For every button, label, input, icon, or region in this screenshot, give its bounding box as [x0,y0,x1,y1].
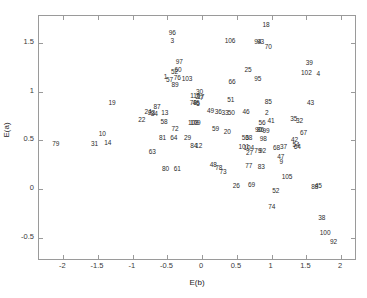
data-point-label: 89 [172,82,179,89]
x-axis-label: E(b) [38,279,356,287]
x-tick-mark [98,255,99,259]
data-point-label: 99 [263,127,270,134]
x-tick-label: 1 [269,262,273,270]
x-tick-mark [272,255,273,259]
data-point-label: 59 [212,126,219,133]
y-tick-mark [351,189,355,190]
data-point-label: 64 [170,135,177,142]
y-tick-label: 0.5 [14,136,34,144]
y-tick-mark [39,189,43,190]
data-point-label: 105 [282,174,293,181]
data-point-label: 4 [316,71,320,78]
data-point-label: 106 [225,38,236,45]
x-tick-label: -0.5 [160,262,173,270]
x-tick-label: 1.5 [300,262,310,270]
y-tick-label: 1.5 [14,38,34,46]
data-point-label: 79 [52,141,59,148]
data-point-label: 103 [182,76,193,83]
y-tick-mark [351,238,355,239]
data-point-label: 70 [265,44,272,51]
data-point-label: 3 [171,38,175,45]
data-point-label: 49 [207,108,214,115]
y-tick-mark [351,43,355,44]
scatter-plot-figure: 1896310694937097396052251024176103579566… [0,0,367,298]
y-tick-mark [39,140,43,141]
data-point-label: 9 [280,159,284,166]
y-tick-mark [351,140,355,141]
data-point-label: 98 [260,136,267,143]
data-point-label: 96 [169,30,176,37]
data-point-label: 27 [246,150,253,157]
x-tick-label: -2 [59,262,66,270]
data-point-label: 100 [320,230,331,237]
data-point-label: 68 [273,145,280,152]
x-tick-label: -1 [128,262,135,270]
data-point-label: 92 [330,239,337,246]
data-point-label: 73 [220,169,227,176]
data-point-label: 31 [91,141,98,148]
data-point-label: 20 [224,128,231,135]
x-tick-mark [63,255,64,259]
data-point-label: 43 [307,100,314,107]
data-point-label: 80 [162,165,169,172]
data-point-label: 37 [280,144,287,151]
data-point-label: 64 [294,144,301,151]
data-point-label: 12 [195,143,202,150]
data-point-label: 67 [300,129,307,136]
data-point-label: 66 [229,79,236,86]
x-tick-mark [306,16,307,20]
x-tick-mark [167,16,168,20]
data-point-label: 58 [160,119,167,126]
data-point-label: 97 [176,58,183,65]
data-point-label: 32 [296,118,303,125]
x-tick-mark [306,255,307,259]
data-point-label: 25 [245,67,252,74]
y-tick-label: 1 [14,87,34,95]
x-tick-mark [133,255,134,259]
data-point-label: 81 [159,134,166,141]
data-point-label: 52 [272,188,279,195]
data-point-label: 74 [268,203,275,210]
x-tick-mark [167,255,168,259]
data-point-label: 45 [315,183,322,190]
data-point-label: 2 [265,110,269,117]
data-point-label: 26 [233,183,240,190]
data-point-label: 51 [227,96,234,103]
data-point-label: 102 [301,70,312,77]
data-point-label: 63 [149,149,156,156]
data-point-label: 85 [265,98,272,105]
data-point-label: 68 [245,135,252,142]
data-point-label: 41 [267,118,274,125]
data-point-label: 92 [259,148,266,155]
y-tick-mark [39,43,43,44]
data-point-label: 29 [184,135,191,142]
data-point-label: 95 [254,76,261,83]
x-tick-mark [63,16,64,20]
data-point-label: 46 [242,109,249,116]
y-tick-label: -0.5 [14,233,34,241]
x-tick-label: -1.5 [91,262,104,270]
data-point-label: 61 [174,165,181,172]
data-point-label: 38 [318,215,325,222]
data-point-label: 14 [104,140,111,147]
x-tick-mark [341,16,342,20]
data-point-label: 22 [138,117,145,124]
x-tick-mark [202,255,203,259]
x-tick-mark [272,16,273,20]
data-point-label: 84 [151,111,158,118]
x-tick-mark [98,16,99,20]
data-point-label: 39 [306,59,313,66]
x-tick-mark [202,16,203,20]
data-point-label: 93 [257,39,264,46]
x-tick-mark [237,255,238,259]
data-point-label: 77 [245,162,252,169]
data-point-label: 83 [258,163,265,170]
y-tick-label: 0 [14,184,34,192]
x-tick-label: 2 [338,262,342,270]
data-point-label: 5 [196,101,200,108]
x-tick-mark [237,16,238,20]
data-point-label: 10 [99,130,106,137]
y-tick-mark [39,92,43,93]
data-point-label: 18 [263,21,270,28]
x-tick-mark [341,255,342,259]
